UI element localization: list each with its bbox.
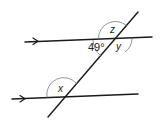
- angle-y-arc: [125, 38, 132, 52]
- angle-y-label: y: [115, 41, 122, 52]
- given-angle-label: 49°: [88, 41, 105, 53]
- transversal-line: [48, 12, 138, 117]
- angle-x-label: x: [57, 83, 64, 94]
- bottom-parallel-line: [12, 94, 138, 99]
- angle-z-label: z: [109, 24, 115, 35]
- parallel-lines-diagram: z y 49° x: [0, 0, 160, 128]
